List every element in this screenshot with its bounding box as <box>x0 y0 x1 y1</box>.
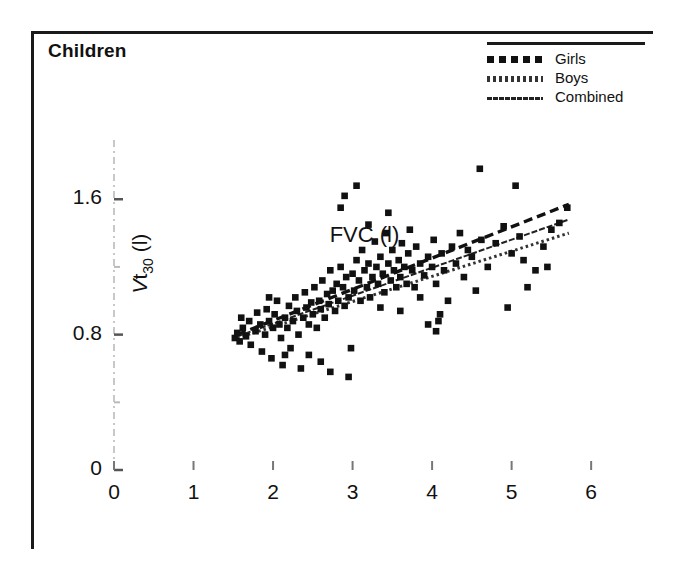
data-point <box>393 284 400 291</box>
data-point <box>364 284 371 291</box>
data-point <box>317 306 324 313</box>
data-point <box>433 328 440 335</box>
data-point <box>332 308 339 315</box>
data-point <box>411 284 418 291</box>
data-point <box>377 304 384 311</box>
data-point <box>274 297 281 304</box>
data-point <box>254 309 261 316</box>
data-point <box>425 321 432 328</box>
data-point <box>257 321 264 328</box>
data-point <box>270 325 277 332</box>
data-point <box>306 352 313 359</box>
regression-line-boys <box>237 233 569 338</box>
data-point <box>259 348 266 355</box>
data-point <box>340 284 347 291</box>
data-point <box>271 311 278 318</box>
data-point <box>437 311 444 318</box>
data-point <box>473 287 480 294</box>
legend-label-boys: Boys <box>555 68 588 87</box>
x-tick-label: 6 <box>571 480 611 504</box>
data-point <box>435 318 442 325</box>
data-point <box>329 287 336 294</box>
data-point <box>429 264 436 271</box>
data-point <box>313 325 320 332</box>
data-point <box>395 257 402 264</box>
data-point <box>279 362 286 369</box>
data-point <box>341 193 348 200</box>
data-point <box>327 267 334 274</box>
data-point <box>343 274 350 281</box>
legend-top-rule <box>487 42 645 45</box>
data-point <box>379 270 386 277</box>
data-point <box>321 314 328 321</box>
data-point <box>300 314 307 321</box>
data-point <box>353 182 360 189</box>
data-point <box>373 264 380 271</box>
data-point <box>276 321 283 328</box>
data-point <box>421 272 428 279</box>
data-point <box>286 303 293 310</box>
data-point <box>520 257 527 264</box>
data-point <box>262 331 269 338</box>
data-point <box>484 264 491 271</box>
data-point <box>564 204 571 211</box>
data-point <box>441 267 448 274</box>
data-point <box>247 341 254 348</box>
legend-item-boys: Boys <box>487 68 647 87</box>
data-point <box>337 204 344 211</box>
x-tick-label: 5 <box>492 480 532 504</box>
legend-item-girls: Girls <box>487 49 647 68</box>
legend-item-combined: Combined <box>487 87 647 106</box>
data-point <box>319 277 326 284</box>
data-point <box>282 352 289 359</box>
figure-panel: Children Girls Boys Combined Vt30 (l) FV… <box>0 0 677 584</box>
data-point <box>433 281 440 288</box>
data-point <box>504 304 511 311</box>
panel-border-left <box>31 31 34 549</box>
data-point <box>266 318 273 325</box>
data-point <box>311 284 318 291</box>
data-point <box>469 253 476 260</box>
data-point <box>349 270 356 277</box>
data-point <box>401 264 408 271</box>
data-point <box>287 345 294 352</box>
legend: Girls Boys Combined <box>487 42 647 106</box>
legend-label-combined: Combined <box>555 87 623 106</box>
data-point <box>353 257 360 264</box>
y-tick-label: 0 <box>42 456 102 480</box>
data-point <box>266 294 273 301</box>
data-point <box>361 267 368 274</box>
data-point <box>461 274 468 281</box>
data-point <box>405 250 412 257</box>
panel-border-top <box>31 31 653 34</box>
data-point <box>356 277 363 284</box>
data-point <box>268 355 275 362</box>
data-point <box>512 182 519 189</box>
data-point <box>333 281 340 288</box>
data-point <box>308 299 315 306</box>
data-point <box>236 338 243 345</box>
data-point <box>325 301 332 308</box>
data-point <box>369 274 376 281</box>
data-point <box>284 325 291 332</box>
data-point <box>238 314 245 321</box>
data-point <box>337 264 344 271</box>
data-point <box>409 267 416 274</box>
data-point <box>453 260 460 267</box>
data-point <box>445 297 452 304</box>
x-axis-title: FVC (l) <box>114 222 615 248</box>
data-point <box>345 294 352 301</box>
x-tick-label: 3 <box>333 480 373 504</box>
data-point <box>335 297 342 304</box>
data-point <box>290 318 297 325</box>
data-point <box>327 369 334 376</box>
data-point <box>240 325 247 332</box>
data-point <box>508 250 515 257</box>
x-tick-label: 2 <box>253 480 293 504</box>
data-point <box>524 284 531 291</box>
data-point <box>385 209 392 216</box>
data-point <box>317 358 324 365</box>
x-tick-label: 0 <box>94 480 134 504</box>
legend-key-girls-icon <box>487 56 543 63</box>
data-point <box>397 274 404 281</box>
